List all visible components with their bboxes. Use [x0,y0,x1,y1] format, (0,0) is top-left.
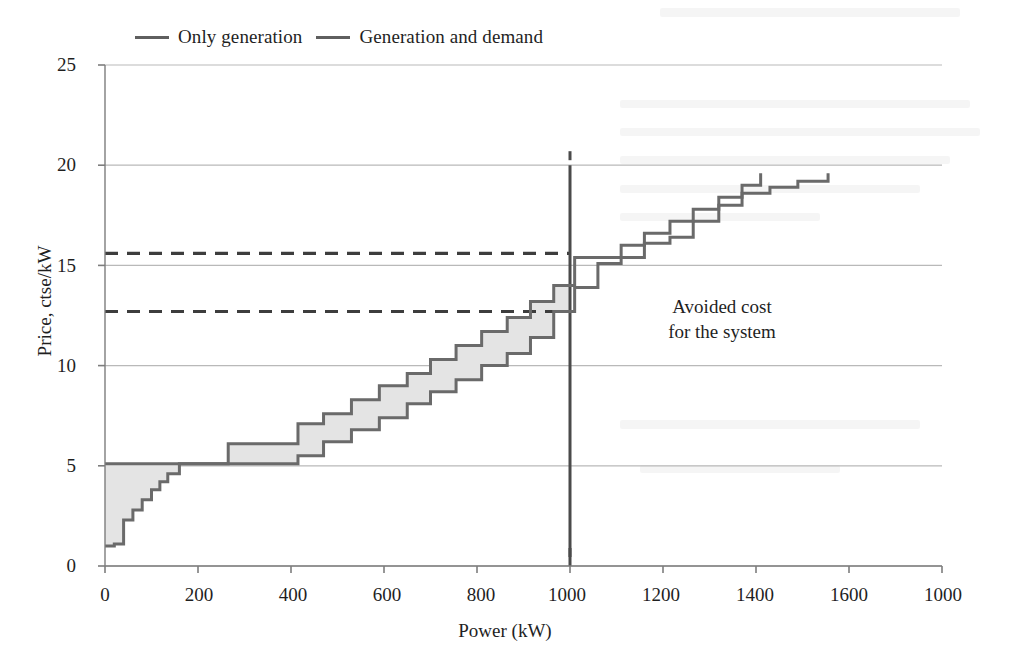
annotation-line-1: Avoided cost [612,294,832,319]
plot-area [0,0,1010,664]
chart-figure: Only generation Generation and demand Pr… [0,0,1010,664]
reference-lines [105,253,570,311]
annotation-line-2: for the system [612,319,832,344]
avoided-cost-annotation: Avoided cost for the system [612,294,832,345]
avoided-cost-shaded-region [105,173,570,546]
